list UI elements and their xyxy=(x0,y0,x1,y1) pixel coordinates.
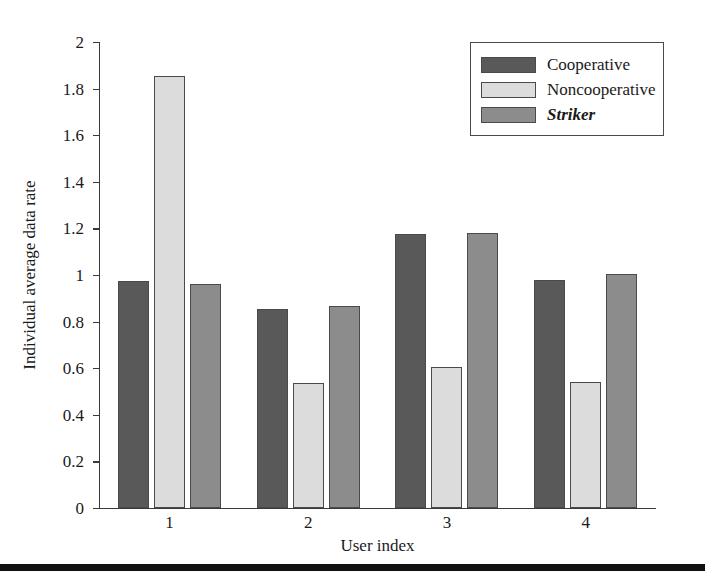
bar xyxy=(534,280,565,508)
bar xyxy=(190,284,221,508)
legend-item-striker: Striker xyxy=(481,102,653,127)
x-axis-tick-label: 1 xyxy=(165,513,174,533)
y-axis-tick-label: 0 xyxy=(76,500,85,517)
y-axis-tick: 0.6 xyxy=(93,368,100,369)
y-axis-tick-label: 1 xyxy=(76,267,85,284)
legend-label-cooperative: Cooperative xyxy=(547,56,630,73)
bar xyxy=(467,233,498,508)
y-axis-tick-label: 2 xyxy=(76,34,85,51)
y-axis-tick-label: 1.4 xyxy=(63,173,84,190)
y-axis-tick-label: 1.2 xyxy=(63,220,84,237)
y-axis-tick: 2 xyxy=(93,42,100,43)
bar xyxy=(118,281,149,508)
bar xyxy=(395,234,426,508)
y-axis-tick: 0.4 xyxy=(93,415,100,416)
bar xyxy=(293,383,324,508)
y-axis-tick-label: 0.2 xyxy=(63,453,84,470)
bar xyxy=(154,76,185,508)
y-axis-tick: 1.4 xyxy=(93,182,100,183)
bar xyxy=(329,306,360,508)
bar xyxy=(570,382,601,508)
x-axis-title: User index xyxy=(100,536,655,556)
footer-rule xyxy=(0,564,705,571)
legend-swatch-striker xyxy=(481,107,536,123)
bar xyxy=(431,367,462,508)
y-axis-tick: 1.8 xyxy=(93,89,100,90)
y-axis-tick: 1 xyxy=(93,275,100,276)
y-axis-tick: 1.6 xyxy=(93,135,100,136)
y-axis-tick: 1.2 xyxy=(93,228,100,229)
y-axis-tick: 0 xyxy=(93,508,100,509)
legend-label-striker: Striker xyxy=(547,106,595,123)
legend-swatch-noncooperative xyxy=(481,82,536,98)
y-axis-tick: 0.2 xyxy=(93,461,100,462)
bar xyxy=(606,274,637,508)
x-axis-tick-label: 2 xyxy=(304,513,313,533)
legend-item-noncooperative: Noncooperative xyxy=(481,77,653,102)
y-axis-tick-label: 0.4 xyxy=(63,406,84,423)
x-axis-tick-label: 3 xyxy=(443,513,452,533)
x-axis-tick-label: 4 xyxy=(581,513,590,533)
y-axis-title: Individual average data rate xyxy=(20,180,40,369)
y-axis-tick-label: 0.6 xyxy=(63,360,84,377)
y-axis-tick-label: 1.8 xyxy=(63,80,84,97)
chart-figure: Individual average data rate User index … xyxy=(0,0,705,584)
bar xyxy=(257,309,288,508)
legend-item-cooperative: Cooperative xyxy=(481,52,653,77)
y-axis-tick-label: 1.6 xyxy=(63,127,84,144)
chart-legend: Cooperative Noncooperative Striker xyxy=(470,42,664,136)
y-axis-tick: 0.8 xyxy=(93,322,100,323)
y-axis-tick-label: 0.8 xyxy=(63,313,84,330)
legend-label-noncooperative: Noncooperative xyxy=(547,81,656,98)
legend-swatch-cooperative xyxy=(481,57,536,73)
